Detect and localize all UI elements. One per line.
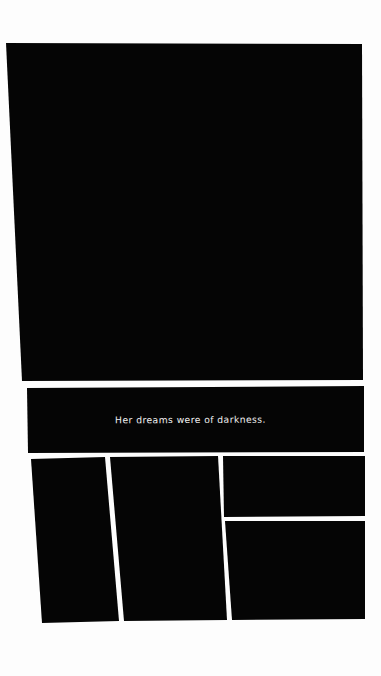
panel-caption <box>27 386 364 453</box>
panel-splash <box>6 43 363 381</box>
comic-page: Her dreams were of darkness. <box>0 0 381 676</box>
panel-bottom-center <box>110 456 227 621</box>
panel-bottom-left <box>31 457 119 623</box>
panel-bottom-right-top <box>223 456 365 517</box>
panel-artwork-layer <box>0 0 381 676</box>
panel-bottom-right-bottom <box>225 521 365 620</box>
